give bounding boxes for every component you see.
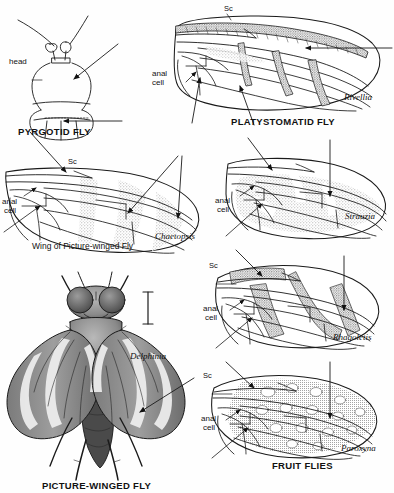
genus-rhagoletis: Rhagoletis — [333, 333, 372, 342]
genus-paroxyna: Paroxyna — [341, 444, 376, 453]
label-cell-platystomatid: cell — [152, 79, 164, 87]
illustration-plate: head PYRGOTID FLY Sc anal cell Rivellia … — [0, 0, 394, 493]
label-cell-paroxyna: cell — [203, 424, 215, 432]
platystomatid-wing-art — [174, 14, 392, 125]
genus-chaetopsis: Chaetopsis — [155, 232, 195, 241]
caption-wing-of-picture-winged-fly: Wing of Picture-winged Fly — [32, 242, 133, 251]
genus-delphinia: Delphinia — [130, 352, 166, 361]
strauzia-wing-art — [226, 138, 386, 239]
label-cell-rhagoletis: cell — [205, 314, 217, 322]
label-cell-chaetopsis: cell — [4, 207, 16, 215]
label-sc-chaetopsis: Sc — [68, 158, 77, 166]
caption-picture-winged-fly: PICTURE-WINGED FLY — [42, 481, 151, 491]
pyrgotid-head-art — [18, 16, 122, 140]
label-head: head — [9, 58, 27, 66]
caption-pyrgotid-fly: PYRGOTID FLY — [18, 127, 91, 137]
label-sc-paroxyna: Sc — [203, 372, 212, 380]
genus-strauzia: Strauzia — [345, 212, 375, 221]
delphinia-fly-art — [7, 272, 194, 480]
label-sc-platystomatid: Sc — [224, 5, 233, 13]
caption-platystomatid-fly: PLATYSTOMATID FLY — [231, 117, 335, 127]
genus-rivellia: Rivellia — [344, 93, 372, 102]
label-sc-rhagoletis: Sc — [209, 262, 218, 270]
label-cell-strauzia: cell — [217, 206, 229, 214]
caption-fruit-flies: FRUIT FLIES — [272, 461, 333, 471]
